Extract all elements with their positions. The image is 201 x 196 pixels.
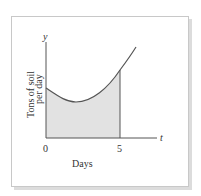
y-axis-label-line2: per day (33, 74, 44, 104)
curve (46, 47, 136, 102)
tick-5: 5 (117, 143, 122, 154)
t-var-label: t (160, 132, 163, 143)
x-axis-label: Days (72, 158, 93, 169)
shaded-area (46, 70, 120, 138)
chart: y t 0 5 Days Tons of soil per day (0, 0, 201, 196)
y-var-label: y (42, 31, 48, 42)
tick-0: 0 (43, 143, 48, 154)
